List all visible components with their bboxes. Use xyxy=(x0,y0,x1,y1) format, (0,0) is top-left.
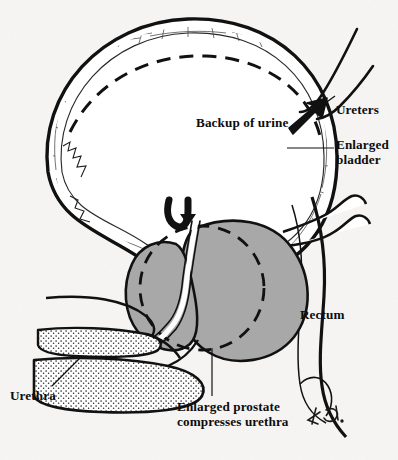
label-backup-of-urine: Backup of urine xyxy=(196,116,288,131)
label-enlarged-prostate: Enlarged prostate compresses urethra xyxy=(177,400,289,430)
label-rectum: Rectum xyxy=(300,308,345,323)
label-enlarged-bladder: Enlarged bladder xyxy=(336,138,389,168)
label-urethra: Urethra xyxy=(10,389,56,404)
anatomical-illustration: Ureters Backup of urine Enlarged bladder… xyxy=(0,0,398,460)
label-ureters: Ureters xyxy=(336,103,379,118)
illustration-canvas xyxy=(0,0,398,460)
penile-corpus-upper xyxy=(38,328,161,357)
